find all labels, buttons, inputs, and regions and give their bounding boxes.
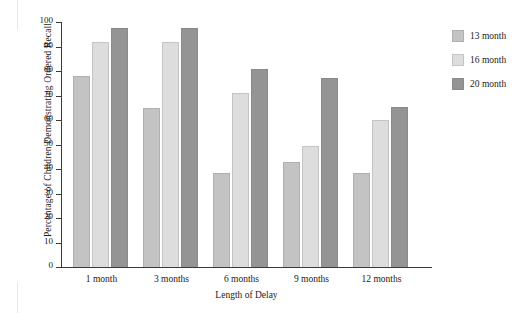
bar — [321, 78, 338, 267]
page-artifact-line — [17, 282, 18, 313]
y-axis-line — [61, 22, 62, 267]
y-axis-tick-label: 60 — [44, 113, 53, 123]
bar — [353, 173, 370, 267]
y-axis-tick: 40 — [56, 169, 61, 170]
bar — [111, 28, 128, 267]
bar — [143, 108, 160, 267]
y-axis-tick-label: 40 — [44, 162, 53, 172]
y-axis-tick-label: 90 — [44, 40, 53, 50]
y-axis-tick: 80 — [56, 71, 61, 72]
bar-group: 1 month — [73, 22, 130, 267]
x-axis-category-label: 12 months — [322, 274, 442, 284]
legend-label: 16 month — [470, 55, 506, 65]
y-axis-tick-label: 70 — [44, 89, 53, 99]
bar-group: 9 months — [283, 22, 340, 267]
y-axis-tick: 70 — [56, 96, 61, 97]
y-axis-tick: 50 — [56, 145, 61, 146]
legend: 13 month16 month20 month — [452, 24, 527, 96]
bar — [283, 162, 300, 267]
page-artifact-line — [17, 0, 18, 30]
bar-chart: Percentage of Children Demonstrating Ord… — [0, 0, 529, 313]
bar-group: 12 months — [353, 22, 410, 267]
x-axis-line — [61, 267, 432, 268]
legend-item: 13 month — [452, 24, 527, 48]
x-axis-title: Length of Delay — [61, 290, 432, 300]
bar — [73, 76, 90, 267]
legend-swatch — [452, 30, 464, 42]
legend-item: 20 month — [452, 72, 527, 96]
y-axis-tick-label: 80 — [44, 64, 53, 74]
legend-item: 16 month — [452, 48, 527, 72]
legend-label: 13 month — [470, 31, 506, 41]
y-axis-tick: 60 — [56, 120, 61, 121]
bar — [92, 42, 109, 267]
y-axis-tick-label: 100 — [40, 15, 54, 25]
bar-group: 6 months — [213, 22, 270, 267]
y-axis-tick: 20 — [56, 218, 61, 219]
plot-area: 0102030405060708090100 1 month3 months6 … — [61, 22, 432, 267]
bar — [391, 107, 408, 267]
bar-group: 3 months — [143, 22, 200, 267]
bar — [302, 146, 319, 267]
y-axis-tick-label: 0 — [49, 260, 54, 270]
bar — [162, 42, 179, 267]
bar — [251, 69, 268, 267]
y-axis-tick: 100 — [56, 22, 61, 23]
legend-swatch — [452, 78, 464, 90]
bar — [372, 120, 389, 267]
legend-swatch — [452, 54, 464, 66]
y-axis-tick-label: 10 — [44, 236, 53, 246]
y-axis-tick: 0 — [56, 267, 61, 268]
y-axis-tick-label: 30 — [44, 187, 53, 197]
y-axis-tick: 30 — [56, 194, 61, 195]
y-axis-tick: 10 — [56, 243, 61, 244]
bar — [213, 173, 230, 267]
y-axis-tick-label: 20 — [44, 211, 53, 221]
legend-label: 20 month — [470, 79, 506, 89]
bar — [181, 28, 198, 267]
y-axis-tick-label: 50 — [44, 138, 53, 148]
bar — [232, 93, 249, 267]
y-axis-tick: 90 — [56, 47, 61, 48]
